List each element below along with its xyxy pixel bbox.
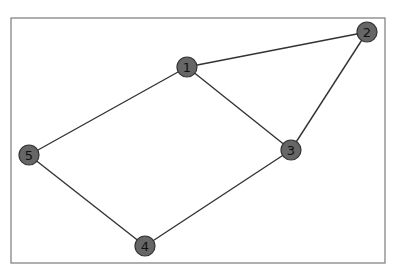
nodes-group: 12345 (19, 22, 377, 256)
node-label: 2 (363, 25, 371, 40)
edge-3-4 (145, 150, 291, 246)
node-1[interactable]: 1 (177, 57, 197, 77)
edge-1-5 (29, 67, 187, 155)
edge-1-3 (187, 67, 291, 150)
node-5[interactable]: 5 (19, 145, 39, 165)
plot-frame (11, 18, 385, 263)
node-4[interactable]: 4 (135, 236, 155, 256)
node-3[interactable]: 3 (281, 140, 301, 160)
edge-4-5 (29, 155, 145, 246)
node-2[interactable]: 2 (357, 22, 377, 42)
graph-canvas: 12345 (0, 0, 398, 279)
node-label: 1 (183, 60, 191, 75)
node-label: 4 (141, 239, 149, 254)
node-label: 5 (25, 148, 33, 163)
edge-1-2 (187, 32, 367, 67)
edges-group (29, 32, 367, 246)
edge-2-3 (291, 32, 367, 150)
node-label: 3 (287, 143, 295, 158)
